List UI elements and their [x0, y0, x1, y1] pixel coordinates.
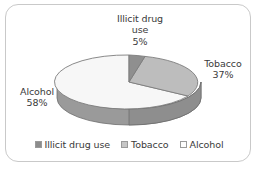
- pie-label-tobacco: Tobacco 37%: [192, 58, 254, 81]
- pie-label-illicit-drug-use: Illicit drug use 5%: [86, 13, 194, 47]
- legend-swatch-icon: [180, 141, 187, 148]
- legend-item-tobacco[interactable]: Tobacco: [121, 139, 168, 150]
- pie-graphic: [49, 44, 209, 136]
- legend-swatch-icon: [121, 141, 128, 148]
- legend-swatch-icon: [35, 141, 42, 148]
- legend-label: Tobacco: [131, 139, 168, 150]
- chart-legend: Illicit drug use Tobacco Alcohol: [0, 139, 258, 150]
- legend-item-illicit-drug-use[interactable]: Illicit drug use: [35, 139, 111, 150]
- legend-label: Illicit drug use: [45, 139, 111, 150]
- pie-label-alcohol: Alcohol 58%: [4, 86, 70, 109]
- pie-chart: Illicit drug use 5% Tobacco 37% Alcohol …: [0, 0, 258, 169]
- legend-item-alcohol[interactable]: Alcohol: [180, 139, 224, 150]
- pie-top-face: [54, 55, 197, 109]
- legend-label: Alcohol: [190, 139, 224, 150]
